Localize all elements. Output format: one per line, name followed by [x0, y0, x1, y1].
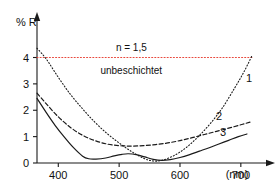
x-tick-label: 600: [171, 169, 189, 181]
y-tick-label: 1: [23, 131, 29, 143]
y-tick-label: 4: [23, 52, 29, 64]
series-label-1: 1: [246, 72, 252, 84]
y-tick-label: 0: [23, 157, 29, 169]
y-tick-label: 2: [23, 104, 29, 116]
chart-canvas: 01234 400500600700 123 n = 1,5unbeschich…: [0, 0, 279, 186]
chart-background: [0, 0, 279, 186]
reflectance-chart: 01234 400500600700 123 n = 1,5unbeschich…: [0, 0, 279, 186]
x-tick-label: 500: [110, 169, 128, 181]
series-label-2: 2: [216, 110, 222, 122]
series-label-3: 3: [220, 126, 226, 138]
y-tick-label: 3: [23, 78, 29, 90]
y-axis-title: % R: [16, 16, 37, 28]
annotation-refractive-index: n = 1,5: [116, 42, 147, 53]
annotation-uncoated: unbeschichtet: [100, 65, 162, 76]
x-axis-unit-label: (nm): [226, 168, 249, 180]
x-tick-label: 400: [49, 169, 67, 181]
